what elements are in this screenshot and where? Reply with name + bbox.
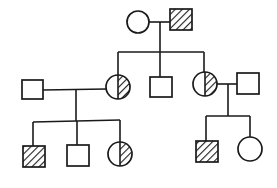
male-affected-symbol	[170, 9, 192, 30]
sibship-3-right	[206, 116, 250, 141]
sibship-3-left	[33, 120, 120, 146]
female-unaffected-symbol	[238, 137, 262, 161]
male-unaffected-symbol	[237, 73, 259, 94]
sibship-2	[118, 52, 204, 77]
female-unaffected-symbol	[127, 11, 149, 33]
male-affected-symbol	[196, 141, 218, 162]
male-unaffected-symbol	[150, 77, 172, 97]
male-unaffected-symbol	[22, 80, 43, 99]
male-unaffected-symbol	[67, 145, 89, 166]
generation-3	[23, 137, 262, 167]
pedigree-chart	[0, 0, 277, 188]
female-carrier-symbol	[193, 72, 217, 96]
female-carrier-symbol	[106, 75, 130, 99]
marriage-line	[43, 89, 106, 90]
generation-1	[127, 9, 192, 52]
generation-2	[22, 72, 259, 121]
male-affected-symbol	[23, 146, 45, 167]
female-carrier-symbol	[108, 142, 132, 166]
